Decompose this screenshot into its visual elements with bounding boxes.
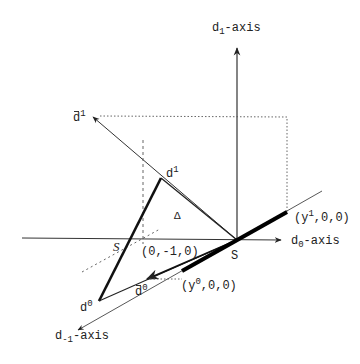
s-left-label: S [113, 241, 120, 253]
d0-axis-label: d0-axis [291, 235, 340, 251]
y1-point-label: (y1,0,0) [294, 208, 350, 224]
edge-d1-origin [161, 178, 237, 240]
d1-point-label: d1 [166, 164, 179, 180]
origin-s-label: S [231, 250, 238, 262]
y0-point-label: (y0,0,0) [181, 276, 237, 292]
neg-unit-label: (0,-1,0) [141, 246, 199, 258]
dbar1-label: d1 [73, 108, 86, 124]
diagram-canvas: d1-axis d0-axis d-1-axis d1 d1 d0 d0 S S… [0, 0, 360, 364]
dminus1-axis-label: d-1-axis [55, 330, 109, 346]
dbar0-label: d0 [135, 282, 148, 298]
projection-dotted-box [100, 116, 287, 212]
delta-label: Δ [174, 210, 181, 222]
d1-axis-label: d1-axis [212, 22, 261, 38]
d0-point-label: d0 [80, 298, 93, 314]
diagram-lines [0, 0, 360, 364]
